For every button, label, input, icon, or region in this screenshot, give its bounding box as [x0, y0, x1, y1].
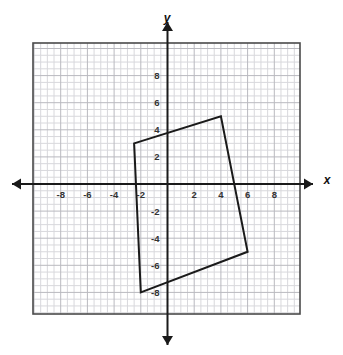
y-tick-label: -6 [151, 260, 159, 271]
x-tick-label: -6 [83, 189, 91, 200]
x-tick-label: -2 [137, 189, 145, 200]
x-tick-label: 6 [245, 189, 250, 200]
coordinate-graph: -8-6-4-224688642-2-4-6-8 x y [0, 0, 343, 355]
x-tick-label: -8 [56, 189, 64, 200]
y-tick-label: -4 [151, 233, 160, 244]
x-tick-label: 8 [272, 189, 277, 200]
y-tick-label: 8 [154, 70, 159, 81]
coordinate-plane-figure: -8-6-4-224688642-2-4-6-8 x y [0, 0, 343, 355]
y-tick-label: -2 [151, 206, 159, 217]
y-tick-label: 2 [154, 151, 159, 162]
x-tick-label: 2 [192, 189, 197, 200]
x-tick-label: -4 [110, 189, 119, 200]
y-tick-label: 4 [154, 124, 160, 135]
y-tick-label: 6 [154, 97, 159, 108]
y-axis-label: y [163, 11, 172, 25]
x-tick-label: 4 [218, 189, 224, 200]
x-axis-label: x [323, 173, 332, 187]
